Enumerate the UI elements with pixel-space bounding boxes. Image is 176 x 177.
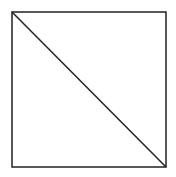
diagonal-line [12,12,166,167]
diagram-canvas [0,0,176,177]
